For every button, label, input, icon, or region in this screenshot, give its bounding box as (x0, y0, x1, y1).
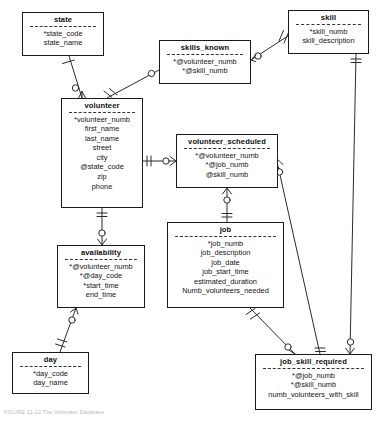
entity-name: job (172, 225, 279, 235)
attribute: *job_numb (172, 239, 279, 249)
entity-name: skill (293, 13, 364, 23)
attribute: numb_volunteers_with_skill (260, 390, 367, 400)
attribute: Numb_volunteers_needed (172, 286, 279, 296)
header-divider (296, 24, 361, 25)
attribute: *@volunteer_numb (181, 151, 273, 161)
attribute: *@skill_numb (164, 66, 246, 76)
attribute: job_date (172, 258, 279, 268)
attribute: estimated_duration (172, 277, 279, 287)
attribute: *@day_code (62, 271, 140, 281)
entity-skill[interactable]: skill *skill_numbskill_description (288, 10, 369, 54)
relationship-skill-skills-known (251, 31, 289, 62)
entity-skills-known[interactable]: skills_known *@volunteer_numb*@skill_num… (159, 40, 251, 84)
attribute: @state_code (66, 162, 138, 172)
figure-caption: FIGURE 11-12 The Volunteer Database (4, 409, 104, 415)
attribute-list: *@volunteer_numb*@job_numb@skill_numb (181, 151, 273, 180)
attribute: street (66, 143, 138, 153)
attribute: last_name (66, 134, 138, 144)
header-divider (20, 366, 81, 367)
entity-name: availability (62, 248, 140, 258)
header-divider (175, 236, 276, 237)
header-divider (167, 54, 243, 55)
er-diagram-canvas: state *state_codestate_name skills_known… (0, 0, 388, 422)
entity-state[interactable]: state *state_codestate_name (22, 12, 104, 56)
attribute-list: *skill_numbskill_description (293, 27, 364, 46)
attribute-list: *@volunteer_numb*@skill_numb (164, 57, 246, 76)
attribute: *@job_numb (260, 371, 367, 381)
attribute: job_description (172, 248, 279, 258)
header-divider (263, 368, 364, 369)
attribute-list: *@volunteer_numb*@day_code*start_timeend… (62, 262, 140, 300)
attribute: *@volunteer_numb (62, 262, 140, 272)
attribute: first_name (66, 124, 138, 134)
attribute: *@job_numb (181, 160, 273, 170)
relationship-volunteer-volunteer-scheduled (143, 156, 176, 166)
attribute: zip (66, 172, 138, 182)
entity-day[interactable]: day *day_codeday_name (12, 352, 89, 394)
header-divider (69, 112, 135, 113)
entity-name: skills_known (164, 43, 246, 53)
entity-job[interactable]: job *job_numbjob_descriptionjob_datejob_… (167, 222, 284, 308)
header-divider (184, 148, 270, 149)
entity-availability[interactable]: availability *@volunteer_numb*@day_code*… (57, 245, 145, 308)
attribute: day_name (17, 378, 84, 388)
attribute: *volunteer_numb (66, 115, 138, 125)
attribute: *day_code (17, 369, 84, 379)
header-divider (30, 26, 96, 27)
relationship-volunteer-availability (97, 208, 107, 245)
entity-name: day (17, 355, 84, 365)
attribute: city (66, 153, 138, 163)
attribute-list: *volunteer_numbfirst_namelast_namestreet… (66, 115, 138, 192)
entity-volunteer-scheduled[interactable]: volunteer_scheduled *@volunteer_numb*@jo… (176, 134, 278, 188)
attribute-list: *job_numbjob_descriptionjob_datejob_star… (172, 239, 279, 297)
entity-job-skill-required[interactable]: job_skill_required *@job_numb*@skill_num… (255, 354, 372, 410)
relationship-skill-job-skill-required (346, 54, 362, 354)
entity-name: state (27, 15, 99, 25)
entity-volunteer[interactable]: volunteer *volunteer_numbfirst_namelast_… (61, 98, 143, 208)
attribute: state_name (27, 38, 99, 48)
attribute: *@skill_numb (260, 380, 367, 390)
relationship-state-volunteer (63, 56, 86, 98)
attribute: skill_description (293, 36, 364, 46)
relationship-day-availability (56, 308, 79, 352)
relationship-volunteer-skills-known (104, 70, 159, 98)
entity-name: job_skill_required (260, 357, 367, 367)
entity-name: volunteer_scheduled (181, 137, 273, 147)
attribute: @skill_numb (181, 170, 273, 180)
attribute: *state_code (27, 29, 99, 39)
attribute: *start_time (62, 281, 140, 291)
relationship-job-volunteer-scheduled (222, 188, 232, 222)
attribute: *@volunteer_numb (164, 57, 246, 67)
attribute-list: *day_codeday_name (17, 369, 84, 388)
attribute-list: *@job_numb*@skill_numbnumb_volunteers_wi… (260, 371, 367, 400)
attribute: end_time (62, 290, 140, 300)
attribute-list: *state_codestate_name (27, 29, 99, 48)
header-divider (65, 259, 137, 260)
attribute: job_start_time (172, 267, 279, 277)
relationship-job-job-skill-required (246, 308, 295, 356)
entity-name: volunteer (66, 101, 138, 111)
attribute: phone (66, 182, 138, 192)
attribute: *skill_numb (293, 27, 364, 37)
